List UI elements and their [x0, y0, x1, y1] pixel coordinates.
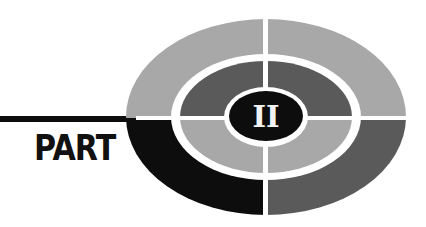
- horizontal-rule: [0, 116, 136, 122]
- part-emblem: II: [0, 0, 426, 227]
- part-numeral: II: [252, 100, 279, 134]
- part-label: PART: [34, 131, 116, 166]
